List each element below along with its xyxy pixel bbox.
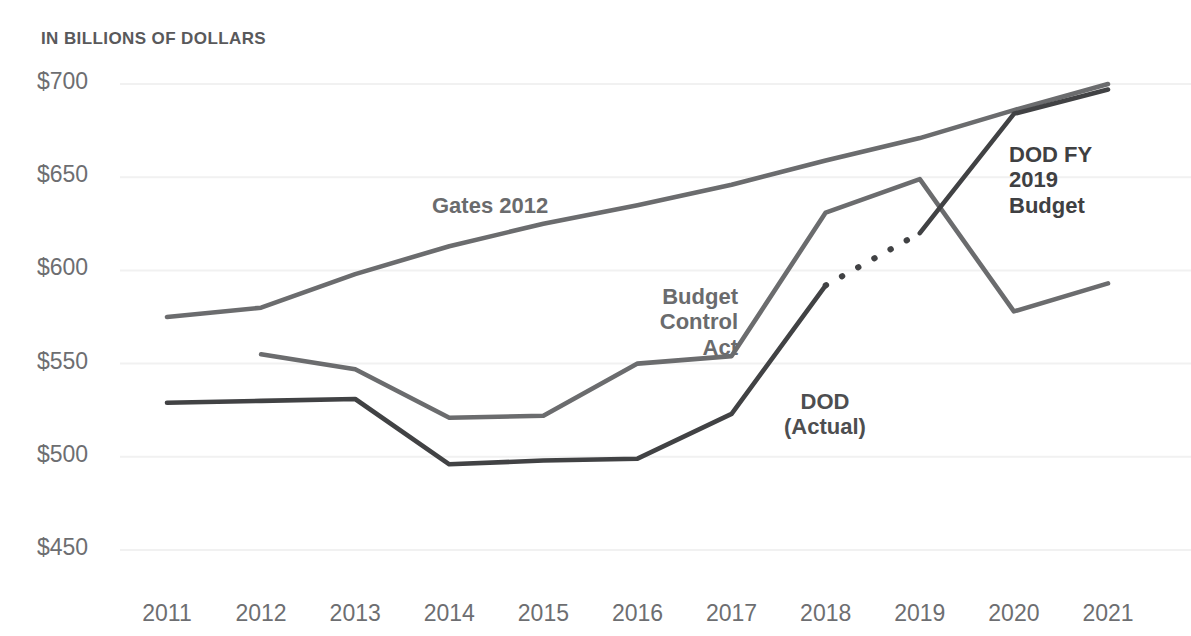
y-axis-tick-label: $550 — [37, 348, 109, 375]
x-axis-tick-label: 2011 — [120, 600, 214, 627]
x-axis-tick-label: 2019 — [873, 600, 967, 627]
series-label-dod-fy-2019-budget: DOD FY 2019 Budget — [1009, 142, 1129, 218]
y-axis-tick-label: $450 — [37, 534, 109, 561]
plot-area — [0, 0, 1191, 636]
x-axis-tick-label: 2020 — [967, 600, 1061, 627]
x-axis-tick-label: 2015 — [496, 600, 590, 627]
series-line — [826, 233, 920, 285]
x-axis-tick-label: 2017 — [685, 600, 779, 627]
y-axis-tick-label: $650 — [37, 161, 109, 188]
x-axis-tick-label: 2021 — [1061, 600, 1155, 627]
x-axis-tick-label: 2016 — [591, 600, 685, 627]
series-label-budget-control-act: Budget Control Act — [597, 284, 738, 360]
x-axis-tick-label: 2012 — [214, 600, 308, 627]
series-paths — [167, 84, 1108, 464]
chart-figure: IN BILLIONS OF DOLLARS $700$650$600$550$… — [0, 0, 1191, 636]
x-axis-tick-label: 2014 — [402, 600, 496, 627]
x-axis-tick-label: 2013 — [308, 600, 402, 627]
series-label-dod-actual: DOD (Actual) — [770, 389, 880, 440]
y-axis-tick-label: $600 — [37, 254, 109, 281]
x-axis-tick-label: 2018 — [779, 600, 873, 627]
y-axis-tick-label: $700 — [37, 68, 109, 95]
series-line — [167, 84, 1108, 317]
y-axis-tick-label: $500 — [37, 441, 109, 468]
series-label-gates-2012: Gates 2012 — [432, 193, 548, 218]
